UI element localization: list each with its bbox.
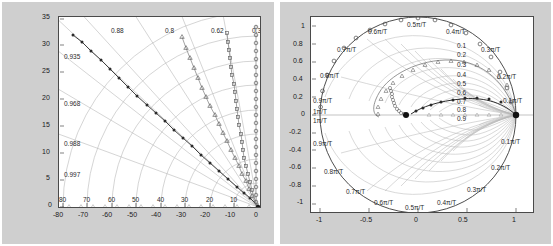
s-plane-axes: 0.935 0.968 0.988 0.997 0.88 0.8 0.62 0.… [58,16,261,208]
z-damping-1: 0.2 [457,52,466,59]
z-freq-lower-2: 0.8π/T [324,169,343,176]
s-frequency-label-3: 50 [132,197,139,204]
locus-branch-triangle [180,35,258,207]
z-xtick-4: 1 [512,216,516,223]
s-xtick-4: -40 [151,211,161,218]
z-xtick-1: -0.5 [360,216,372,223]
s-ytick-1: 30 [42,40,50,47]
z-xtick-3: 0.5 [458,216,468,223]
z-ytick-2: 0.6 [293,57,303,64]
s-plane-plot [59,17,261,208]
z-ytick-10: -1 [297,198,303,205]
z-plane-panel: 0.5π/T 0.6π/T 0.7π/T 0.8π/T 0.9π/T 1π/T … [280,2,551,244]
z-ytick-5: 0 [301,110,305,117]
z-freq-upper-4: 0.9π/T [313,98,332,105]
s-xtick-3: -50 [127,211,137,218]
s-xtick-2: -60 [102,211,112,218]
s-ytick-4: 15 [42,121,50,128]
z-freq-upper-2: 0.7π/T [337,47,356,54]
pole-at-unity [513,112,519,118]
s-damping-label-0: 0.935 [64,54,80,61]
real-axis-markers [67,205,251,208]
z-freq-upper-1: 0.6π/T [368,29,387,36]
s-xtick-8: 0 [254,211,258,218]
matlab-figure: 0.935 0.968 0.988 0.997 0.88 0.8 0.62 0.… [0,0,553,246]
s-ytick-2: 25 [42,67,50,74]
s-xtick-0: -80 [53,211,63,218]
z-plane-axes: 0.5π/T 0.6π/T 0.7π/T 0.8π/T 0.9π/T 1π/T … [310,16,534,213]
z-freq-upper-7: 0.3π/T [481,47,500,54]
z-ytick-9: -0.8 [289,181,301,188]
z-ytick-7: -0.4 [289,146,301,153]
z-freq-lower-4: 0.6π/T [374,200,393,207]
s-damping-label-top-0: 0.88 [111,28,124,35]
z-ytick-0: 1 [301,22,305,29]
z-freq-lower-3: 0.7π/T [346,189,365,196]
s-damping-label-1: 0.968 [64,101,80,108]
s-frequency-label-1: 70 [83,197,90,204]
z-freq-lower-9: 0.1π/T [501,139,520,146]
z-freq-upper-8: 0.2π/T [497,74,516,81]
s-ytick-6: 5 [46,174,50,181]
s-frequency-label-5: 30 [181,197,188,204]
z-ytick-1: 0.8 [293,40,303,47]
s-ytick-5: 10 [42,148,50,155]
z-damping-8: 0.9 [457,116,466,123]
z-damping-5: 0.6 [457,90,466,97]
s-xtick-6: -20 [200,211,210,218]
s-damping-label-top-3: 0.35 [252,28,261,35]
z-damping-0: 0.1 [457,43,466,50]
z-damping-7: 0.8 [457,107,466,114]
z-freq-lower-1: 0.9π/T [313,141,332,148]
s-ytick-0: 35 [42,13,50,20]
unit-circle-markers [319,17,513,109]
s-xtick-7: -10 [225,211,235,218]
z-damping-3: 0.4 [457,72,466,79]
z-freq-upper-9: 0.1π/T [503,98,522,105]
z-freq-lower-6: 0.4π/T [437,200,456,207]
z-ytick-3: 0.4 [293,75,303,82]
s-xtick-1: -70 [78,211,88,218]
s-frequency-label-4: 40 [157,197,164,204]
z-freq-lower-0: 1π/T [313,118,327,125]
s-frequency-label-6: 20 [206,197,213,204]
s-frequency-label-0: 80 [59,197,66,204]
z-xtick-2: 0 [414,216,418,223]
z-freq-upper-0: 0.5π/T [407,22,426,29]
z-freq-lower-7: 0.3π/T [467,187,486,194]
z-freq-upper-6: 0.4π/T [446,29,465,36]
z-freq-lower-5: 0.5π/T [405,205,424,212]
s-damping-label-top-1: 0.8 [165,28,174,35]
s-ytick-7: 0 [48,201,52,208]
z-damping-2: 0.3 [457,62,466,69]
triangle-markers [180,35,254,198]
s-damping-label-top-2: 0.62 [211,28,224,35]
s-xtick-5: -30 [176,211,186,218]
zaxis-ticks [312,26,516,212]
s-ytick-3: 20 [42,94,50,101]
z-xtick-0: -1 [316,216,322,223]
z-ytick-4: 0.2 [293,93,303,100]
z-damping-4: 0.5 [457,81,466,88]
z-ytick-6: -0.2 [289,128,301,135]
z-freq-lower-8: 0.2π/T [491,165,510,172]
s-plane-panel: 0.935 0.968 0.988 0.997 0.88 0.8 0.62 0.… [2,2,274,244]
pole-near-origin [403,112,409,118]
s-damping-label-3: 0.997 [64,172,80,179]
z-ytick-8: -0.6 [289,163,301,170]
z-damping-6: 0.7 [457,99,466,106]
locus-branch-circle [254,25,258,207]
z-freq-upper-3: 0.8π/T [320,73,339,80]
z-freq-upper-5: 1π/T [313,109,327,116]
s-frequency-label-2: 60 [108,197,115,204]
s-damping-label-2: 0.988 [64,141,80,148]
s-frequency-label-7: 10 [230,197,237,204]
